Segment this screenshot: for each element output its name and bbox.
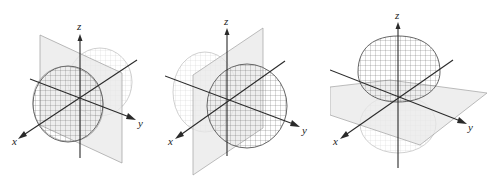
x-arrow-icon [18, 131, 27, 139]
x-axis-label: x [11, 135, 17, 147]
z-arrow-icon [396, 22, 401, 29]
y-axis-label: y [137, 117, 143, 129]
y-arrow-icon [126, 113, 136, 120]
z-axis-label: z [223, 15, 229, 27]
x-axis-label: x [332, 135, 338, 147]
p-orbitals-figure: z y x [0, 0, 494, 182]
panel-px-orbital: z y x [0, 0, 165, 182]
panel-py-orbital: z y x [165, 0, 330, 182]
y-axis-label: y [467, 121, 473, 133]
panel-pz-orbital: z y x [330, 0, 494, 182]
x-arrow-icon [175, 131, 184, 139]
x-arrow-icon [340, 131, 349, 139]
x-axis-label: x [167, 135, 173, 147]
y-axis-label: y [301, 124, 307, 136]
y-arrow-icon [457, 117, 467, 124]
front-lobe [207, 64, 287, 148]
z-axis-label: z [76, 20, 82, 32]
front-lobe [358, 36, 440, 102]
y-arrow-icon [290, 120, 300, 127]
z-axis-label: z [394, 9, 400, 21]
z-arrow-icon [225, 28, 230, 35]
z-arrow-icon [78, 34, 83, 41]
